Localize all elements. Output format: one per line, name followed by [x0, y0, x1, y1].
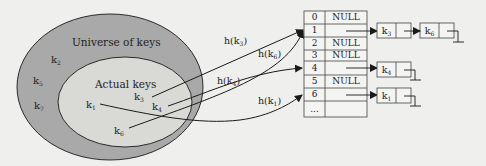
actual-key: k3 [134, 92, 144, 103]
actual-key: k4 [152, 102, 162, 113]
chain-node-key: k4 [377, 65, 396, 76]
universe-key: k5 [33, 76, 43, 87]
hash-table-diagram: Universe of keys Actual keys k2 k5 k7 k1… [0, 0, 486, 166]
table-value: NULL [325, 75, 367, 88]
table-index: 1 [304, 24, 325, 37]
hash-label: h(k3) [224, 36, 247, 47]
universe-key: k2 [51, 55, 61, 66]
chain-node-key: k3 [377, 26, 396, 37]
table-index: 6 [304, 88, 325, 101]
table-index: 4 [304, 62, 325, 75]
table-value: NULL [325, 11, 367, 24]
actual-keys-set [58, 57, 192, 147]
table-index: ... [304, 103, 325, 116]
table-value: NULL [325, 49, 367, 62]
hash-label: h(k4) [217, 76, 240, 87]
table-index: 3 [304, 49, 325, 62]
chain-node-key: k6 [420, 26, 439, 37]
universe-key: k7 [34, 101, 44, 112]
actual-key: k1 [86, 100, 96, 111]
actual-key: k6 [114, 126, 124, 137]
universe-label: Universe of keys [72, 37, 161, 48]
table-index: 0 [304, 11, 325, 24]
hash-label: h(k1) [258, 96, 281, 107]
table-index: 5 [304, 75, 325, 88]
chain-node-key: k1 [377, 91, 396, 102]
hash-label: h(k6) [258, 49, 281, 60]
actual-keys-label: Actual keys [95, 79, 156, 90]
diagram-canvas [0, 0, 486, 166]
